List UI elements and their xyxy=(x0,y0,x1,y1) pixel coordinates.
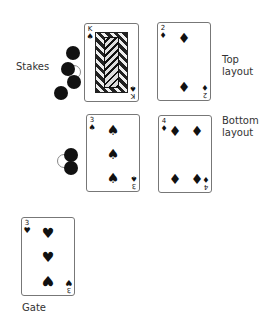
card-index-top: 3 ♠ xyxy=(88,117,96,132)
card-index-top: 4 ♦ xyxy=(160,118,168,133)
card-index-bottom: 4 ♦ xyxy=(202,175,210,190)
diamond-icon: ♦ xyxy=(177,31,191,45)
card-two-of-diamonds: 2 ♦ ♦ ♦ 2 ♦ xyxy=(157,22,211,101)
chip-black xyxy=(64,148,78,162)
card-four-of-diamonds: 4 ♦ ♦ ♦ ♦ ♦ 4 ♦ xyxy=(158,115,212,193)
chip-black xyxy=(61,62,75,76)
heart-icon: ♥ xyxy=(23,227,31,235)
bottom-layout-label-line1: Bottom xyxy=(222,115,259,127)
spade-icon: ♠ xyxy=(130,174,138,182)
card-king-of-spades: K ♠ K ♠ xyxy=(84,23,139,102)
diamond-icon: ♦ xyxy=(177,80,191,94)
diamond-icon: ♦ xyxy=(168,124,182,138)
suit-icon: ♠ xyxy=(86,33,94,41)
king-face-artwork xyxy=(95,32,128,93)
card-index-bottom: 3 ♠ xyxy=(130,174,138,189)
suit-icon: ♠ xyxy=(129,84,137,92)
heart-icon: ♥ xyxy=(41,226,55,240)
diamond-icon: ♦ xyxy=(168,172,182,186)
rank-text: 2 xyxy=(203,91,207,99)
card-index-top: K ♠ xyxy=(86,26,94,41)
spade-icon: ♠ xyxy=(88,124,96,132)
card-index-bottom: K ♠ xyxy=(129,84,137,99)
diamond-icon: ♦ xyxy=(159,32,167,40)
diamond-icon: ♦ xyxy=(190,124,204,138)
top-layout-label: Top layout xyxy=(222,54,253,78)
chip-black xyxy=(67,75,81,89)
diamond-icon: ♦ xyxy=(201,83,209,91)
card-index-bottom: 2 ♦ xyxy=(201,83,209,98)
chip-black xyxy=(54,86,68,100)
diamond-icon: ♦ xyxy=(160,125,168,133)
spade-icon: ♠ xyxy=(106,147,120,161)
spade-icon: ♠ xyxy=(106,123,120,137)
chip-black xyxy=(64,161,78,175)
rank-text: 3 xyxy=(67,286,71,294)
gate-label: Gate xyxy=(22,302,46,314)
chip-black xyxy=(66,46,80,60)
card-index-top: 2 ♦ xyxy=(159,25,167,40)
heart-icon: ♥ xyxy=(65,278,73,286)
bottom-layout-label-line2: layout xyxy=(222,127,259,139)
card-three-of-spades: 3 ♠ ♠ ♠ ♠ 3 ♠ xyxy=(86,114,140,192)
rank-text: 4 xyxy=(204,183,208,191)
heart-icon: ♥ xyxy=(41,250,55,264)
card-three-of-hearts: 3 ♥ ♥ ♥ ♥ 3 ♥ xyxy=(21,217,75,296)
card-index-top: 3 ♥ xyxy=(23,220,31,235)
heart-icon: ♥ xyxy=(41,274,55,288)
spade-icon: ♠ xyxy=(106,171,120,185)
rank-text: 3 xyxy=(132,182,136,190)
stakes-label: Stakes xyxy=(16,61,49,73)
bottom-layout-label: Bottom layout xyxy=(222,115,259,139)
rank-text: K xyxy=(131,92,136,100)
card-index-bottom: 3 ♥ xyxy=(65,278,73,293)
diamond-icon: ♦ xyxy=(202,175,210,183)
top-layout-label-line2: layout xyxy=(222,66,253,78)
top-layout-label-line1: Top xyxy=(222,54,253,66)
